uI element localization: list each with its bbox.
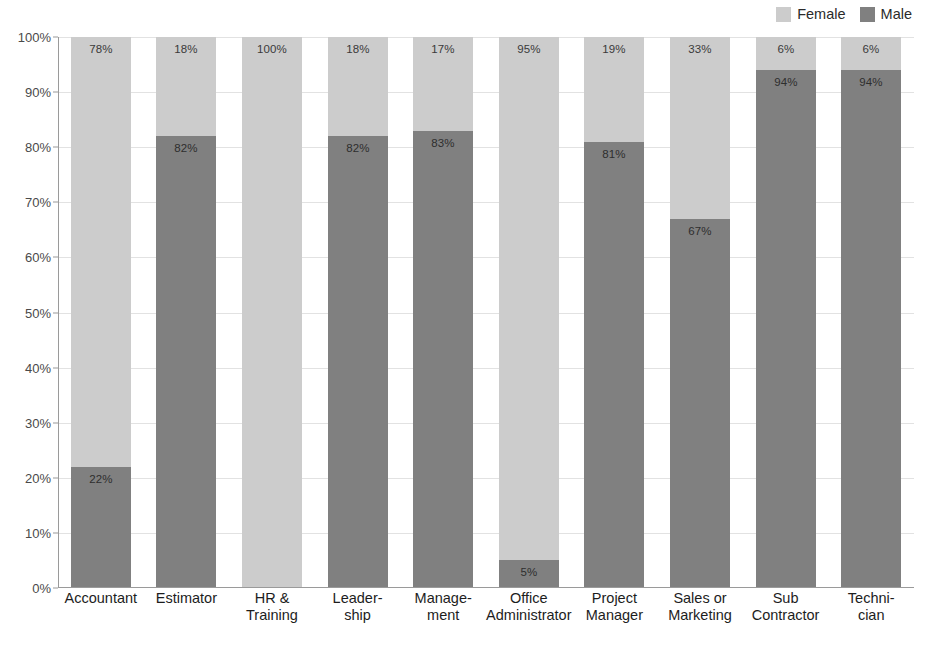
bar-value-label: 22%: [89, 473, 112, 485]
bar-group[interactable]: 18%82%: [156, 37, 216, 588]
y-axis-tick-label: 30%: [25, 415, 51, 430]
legend-item-female[interactable]: Female: [776, 7, 845, 22]
bar-segment-male[interactable]: 82%: [328, 136, 388, 588]
chart-legend: Female Male: [776, 4, 912, 24]
bar-value-label: 81%: [602, 148, 625, 160]
x-axis-line: [58, 587, 914, 588]
y-axis-tick-label: 40%: [25, 360, 51, 375]
x-axis-category-label: Leader- ship: [315, 590, 401, 624]
bar-group[interactable]: 6%94%: [756, 37, 816, 588]
bar-segment-female[interactable]: 6%: [841, 37, 901, 70]
y-axis-tick-label: 100%: [18, 30, 51, 45]
bar-value-label: 83%: [431, 137, 454, 149]
x-axis-category-label: Techni- cian: [828, 590, 914, 624]
bar-segment-male[interactable]: 22%: [71, 467, 131, 588]
plot-area: 100%90%80%70%60%50%40%30%20%10%0% 78%22%…: [58, 37, 914, 588]
bar-value-label: 6%: [863, 43, 880, 55]
bar-segment-female[interactable]: 33%: [670, 37, 730, 219]
x-axis-category-label: Accountant: [58, 590, 144, 607]
y-axis-line: [58, 37, 59, 588]
bar-group[interactable]: 17%83%: [413, 37, 473, 588]
bar-segment-female[interactable]: 17%: [413, 37, 473, 131]
bar-segment-female[interactable]: 18%: [156, 37, 216, 136]
x-axis-category-label: Manage- ment: [400, 590, 486, 624]
bar-segment-male[interactable]: 94%: [756, 70, 816, 588]
legend-label-female: Female: [797, 7, 845, 22]
x-axis-category-label: Sales or Marketing: [657, 590, 743, 624]
bar-value-label: 5%: [521, 566, 538, 578]
y-axis-tick-label: 70%: [25, 195, 51, 210]
bar-value-label: 100%: [257, 43, 287, 55]
bar-segment-male[interactable]: 67%: [670, 219, 730, 588]
bar-segment-female[interactable]: 18%: [328, 37, 388, 136]
legend-swatch-male: [860, 7, 875, 22]
x-axis-category-label: Project Manager: [572, 590, 658, 624]
bar-segment-male[interactable]: 83%: [413, 131, 473, 588]
x-axis-category-label: Estimator: [144, 590, 230, 607]
y-axis-tick-label: 90%: [25, 85, 51, 100]
y-axis-tick-label: 50%: [25, 305, 51, 320]
y-axis-tick-label: 10%: [25, 525, 51, 540]
y-axis-tick-label: 20%: [25, 470, 51, 485]
bar-value-label: 67%: [688, 225, 711, 237]
bar-value-label: 33%: [688, 43, 711, 55]
bar-group[interactable]: 18%82%: [328, 37, 388, 588]
bar-segment-male[interactable]: 82%: [156, 136, 216, 588]
bar-group[interactable]: 6%94%: [841, 37, 901, 588]
bar-value-label: 78%: [89, 43, 112, 55]
bar-group[interactable]: 95%5%: [499, 37, 559, 588]
bar-value-label: 19%: [602, 43, 625, 55]
bar-value-label: 18%: [174, 43, 197, 55]
y-axis-tick-label: 80%: [25, 140, 51, 155]
legend-label-male: Male: [881, 7, 912, 22]
bar-value-label: 18%: [346, 43, 369, 55]
bar-value-label: 94%: [859, 76, 882, 88]
x-axis-category-label: Sub Contractor: [743, 590, 829, 624]
bar-segment-female[interactable]: 100%: [242, 37, 302, 588]
bar-value-label: 17%: [431, 43, 454, 55]
bar-value-label: 94%: [774, 76, 797, 88]
y-axis-tick-label: 0%: [32, 581, 51, 596]
x-axis-category-label: Office Administrator: [486, 590, 572, 624]
bar-value-label: 82%: [174, 142, 197, 154]
legend-item-male[interactable]: Male: [860, 7, 912, 22]
bar-segment-female[interactable]: 78%: [71, 37, 131, 467]
bar-value-label: 82%: [346, 142, 369, 154]
x-axis-labels: AccountantEstimatorHR & TrainingLeader- …: [58, 590, 914, 642]
bar-segment-male[interactable]: 5%: [499, 560, 559, 588]
bar-value-label: 6%: [778, 43, 795, 55]
bar-group[interactable]: 100%: [242, 37, 302, 588]
bar-value-label: 95%: [517, 43, 540, 55]
bar-group[interactable]: 33%67%: [670, 37, 730, 588]
x-axis-category-label: HR & Training: [229, 590, 315, 624]
bar-group[interactable]: 78%22%: [71, 37, 131, 588]
bar-group[interactable]: 19%81%: [584, 37, 644, 588]
legend-swatch-female: [776, 7, 791, 22]
bar-segment-female[interactable]: 6%: [756, 37, 816, 70]
bar-segment-male[interactable]: 81%: [584, 142, 644, 588]
bar-segment-female[interactable]: 95%: [499, 37, 559, 560]
bar-segment-female[interactable]: 19%: [584, 37, 644, 142]
y-axis-tick-label: 60%: [25, 250, 51, 265]
stacked-bar-chart: Female Male 100%90%80%70%60%50%40%30%20%…: [0, 0, 930, 646]
bar-segment-male[interactable]: 94%: [841, 70, 901, 588]
